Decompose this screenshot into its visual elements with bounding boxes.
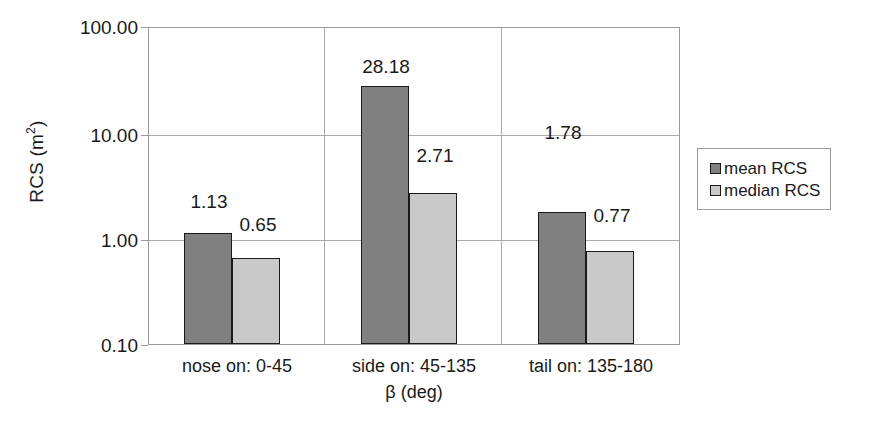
legend-swatch-median-rcs [710,185,721,196]
y-tick-label-10: 10.00 [52,126,138,145]
bar-chart-figure: RCS (m2) 100.00 10.00 1.00 0.10 1.13 0.6… [0,0,873,428]
legend-label-median-rcs: median RCS [724,182,820,199]
y-tick-label-1: 1.00 [52,231,138,250]
y-axis-title-superscript: 2 [24,127,38,134]
y-tick-mark-0-1 [141,345,148,346]
bar-median-nose-on [232,258,280,344]
y-tick-mark-10 [141,135,148,136]
x-tick-label-side-on: side on: 45-135 [324,356,504,376]
y-axis-title: RCS (m2) [24,82,47,242]
value-label-mean-tail-on: 1.78 [507,123,619,142]
y-tick-label-100: 100.00 [52,18,138,37]
legend-item-median-rcs: median RCS [710,179,830,201]
bar-median-tail-on [586,251,634,344]
x-axis-title: β (deg) [148,382,680,403]
value-label-median-tail-on: 0.77 [556,206,668,225]
legend: mean RCS median RCS [697,148,831,210]
x-tick-label-tail-on: tail on: 135-180 [501,356,681,376]
bar-mean-tail-on [538,212,586,344]
y-axis-title-paren: ) [26,121,47,128]
value-label-median-side-on: 2.71 [379,146,491,165]
y-tick-mark-100 [141,27,148,28]
bar-median-side-on [409,193,457,344]
value-label-median-nose-on: 0.65 [202,215,314,234]
y-tick-mark-1 [141,240,148,241]
legend-swatch-mean-rcs [710,163,721,174]
y-axis-title-text: RCS (m [26,134,47,203]
gridline-x-1 [324,28,325,344]
legend-label-mean-rcs: mean RCS [724,160,807,177]
value-label-mean-nose-on: 1.13 [153,192,265,211]
y-tick-label-0-1: 0.10 [52,336,138,355]
gridline-x-2 [501,28,502,344]
legend-item-mean-rcs: mean RCS [710,157,830,179]
bar-mean-nose-on [184,233,232,344]
value-label-mean-side-on: 28.18 [330,57,442,76]
x-tick-label-nose-on: nose on: 0-45 [147,356,327,376]
bar-mean-side-on [361,86,409,344]
